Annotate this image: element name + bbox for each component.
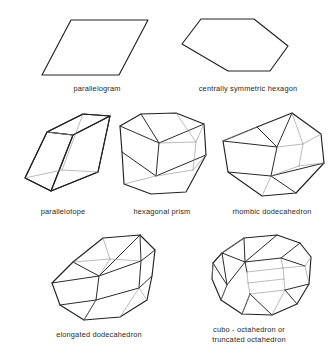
shape-parallelotope xyxy=(25,114,110,191)
shape-rhombic-dodecahedron xyxy=(223,113,324,196)
shape-cubo-octahedron xyxy=(212,235,311,315)
caption-hexagonal-prism: hexagonal prism xyxy=(134,207,191,217)
caption-elongated-dodecahedron: elongated dodecahedron xyxy=(56,330,142,340)
shape-hexagonal-prism xyxy=(120,113,206,194)
caption-parallelogram: parallelogram xyxy=(73,84,120,94)
shape-elongated-dodecahedron xyxy=(52,235,155,320)
caption-centrally-symmetric-hexagon: centrally symmetric hexagon xyxy=(199,84,298,94)
shape-centrally-symmetric-hexagon xyxy=(182,19,288,71)
caption-cubo-octahedron-line-2: truncated octahedron xyxy=(212,335,285,345)
polyhedra-line-art xyxy=(0,0,333,359)
caption-cubo-octahedron: cubo - octahedron or truncated octahedro… xyxy=(212,325,285,344)
caption-parallelotope: parallelotope xyxy=(41,207,86,217)
shape-parallelogram xyxy=(42,20,148,75)
caption-rhombic-dodecahedron: rhombic dodecahedron xyxy=(232,207,311,217)
caption-cubo-octahedron-line-1: cubo - octahedron or xyxy=(212,325,285,335)
figure-canvas: parallelogram centrally symmetric hexago… xyxy=(0,0,333,359)
